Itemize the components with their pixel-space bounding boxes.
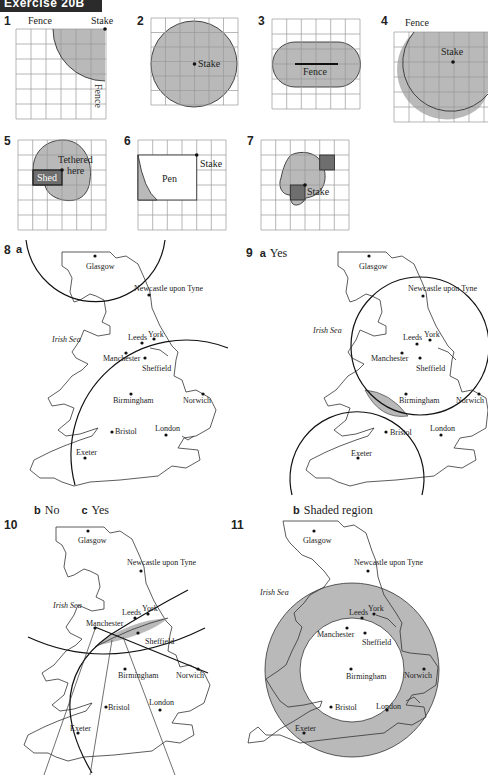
city-leeds: Leeds: [349, 608, 368, 617]
figure-6-grid: [138, 140, 228, 232]
question-number-7: 7: [247, 134, 254, 148]
city-glasgow: Glasgow: [78, 536, 106, 545]
circle-birmingham-range: [71, 340, 228, 485]
city-exeter: Exeter: [351, 449, 372, 458]
label-fence: Fence: [28, 15, 52, 26]
label-here: here: [67, 165, 84, 176]
city-birmingham: Birmingham: [113, 396, 153, 405]
city-exeter: Exeter: [70, 724, 91, 733]
city-london: London: [376, 702, 401, 711]
city-bristol: Bristol: [108, 703, 130, 712]
city-norwich: Norwich: [404, 671, 432, 680]
question-number-6: 6: [124, 134, 131, 148]
label-stake: Stake: [200, 158, 222, 169]
city-newcastle: Newcastle upon Tyne: [134, 284, 203, 293]
figure-2-grid: [151, 18, 243, 110]
map-figure-9: [240, 240, 488, 500]
city-london: London: [430, 424, 455, 433]
city-leeds: Leeds: [128, 333, 147, 342]
city-birmingham: Birmingham: [346, 672, 386, 681]
label-tethered: Tethered: [58, 154, 93, 165]
arc-range-2: [70, 590, 188, 773]
city-york: York: [148, 330, 164, 339]
label-fence: Fence: [405, 17, 429, 28]
circle-upper-range: [351, 277, 488, 415]
city-sheffield: Sheffield: [362, 638, 391, 647]
irish-sea-label: Irish Sea: [53, 601, 82, 610]
city-manchester: Manchester: [86, 619, 123, 628]
city-birmingham: Birmingham: [118, 671, 158, 680]
exercise-title-banner: Exercise 20B: [0, 0, 102, 12]
question-number-2: 2: [137, 14, 144, 28]
city-newcastle: Newcastle upon Tyne: [354, 558, 423, 567]
label-stake: Stake: [307, 186, 329, 197]
city-london: London: [155, 424, 180, 433]
figure-7-grid: [261, 140, 351, 232]
city-sheffield: Sheffield: [416, 364, 445, 373]
label-shed: Shed: [37, 172, 57, 183]
question-number-5: 5: [4, 134, 11, 148]
city-norwich: Norwich: [176, 671, 204, 680]
city-birmingham: Birmingham: [399, 396, 439, 405]
exercise-title: Exercise 20B: [4, 0, 85, 10]
irish-sea-label: Irish Sea: [313, 326, 342, 335]
city-manchester: Manchester: [371, 354, 408, 363]
label-fence-vertical: Fence: [93, 84, 104, 108]
question-number-1: 1: [4, 14, 11, 28]
irish-sea-label: Irish Sea: [52, 335, 81, 344]
city-newcastle: Newcastle upon Tyne: [408, 284, 477, 293]
label-pen: Pen: [162, 173, 177, 184]
city-glasgow: Glasgow: [303, 536, 331, 545]
city-manchester: Manchester: [103, 354, 140, 363]
city-norwich: Norwich: [183, 396, 211, 405]
city-manchester: Manchester: [317, 630, 354, 639]
figure-3-grid: [272, 19, 364, 111]
label-fence: Fence: [303, 66, 327, 77]
city-newcastle: Newcastle upon Tyne: [127, 558, 196, 567]
city-york: York: [424, 330, 440, 339]
city-bristol: Bristol: [390, 428, 412, 437]
city-glasgow: Glasgow: [359, 262, 387, 271]
label-stake: Stake: [91, 15, 113, 26]
city-leeds: Leeds: [403, 333, 422, 342]
city-sheffield: Sheffield: [145, 637, 174, 646]
city-exeter: Exeter: [295, 724, 316, 733]
city-sheffield: Sheffield: [142, 364, 171, 373]
irish-sea-label: Irish Sea: [260, 588, 289, 597]
city-york: York: [368, 604, 384, 613]
question-number-3: 3: [258, 14, 265, 28]
city-leeds: Leeds: [122, 608, 141, 617]
city-bristol: Bristol: [115, 427, 137, 436]
city-london: London: [149, 698, 174, 707]
city-bristol: Bristol: [335, 703, 357, 712]
map-figure-10: [0, 515, 240, 781]
city-exeter: Exeter: [76, 448, 97, 457]
question-number-4: 4: [381, 14, 388, 28]
city-norwich: Norwich: [456, 396, 484, 405]
city-glasgow: Glasgow: [86, 262, 114, 271]
label-stake: Stake: [441, 46, 463, 57]
label-stake: Stake: [198, 58, 220, 69]
map-figure-11: [240, 515, 488, 781]
city-york: York: [142, 604, 158, 613]
map-figure-8: [0, 240, 240, 500]
